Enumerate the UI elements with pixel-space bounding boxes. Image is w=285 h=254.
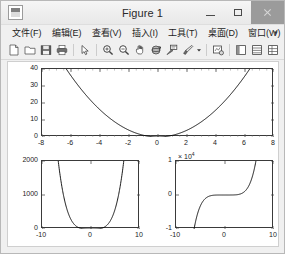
menu-bar: 文件(F) 编辑(E) 查看(V) 插入(I) 工具(T) 桌面(D) 窗口(W… (1, 25, 284, 41)
link-plot-icon[interactable] (210, 43, 225, 58)
x-tick-label: 0 (222, 231, 226, 239)
x-tick-label: 6 (242, 139, 246, 147)
x-tick-label: -2 (125, 139, 131, 147)
bottom-right-plot-axes[interactable] (175, 160, 273, 228)
open-file-icon[interactable] (22, 43, 37, 58)
maximize-icon (234, 9, 242, 16)
x-tick-label: 0 (155, 139, 159, 147)
new-figure-icon[interactable] (6, 43, 21, 58)
x-tick-label: -10 (170, 231, 180, 239)
title-bar: Figure 1 (1, 1, 284, 25)
rotate-3d-icon[interactable] (148, 43, 163, 58)
menu-file[interactable]: 文件(F) (7, 26, 47, 40)
maximize-button[interactable] (224, 1, 251, 24)
x-tick-label: 10 (135, 231, 143, 239)
brush-icon[interactable] (180, 43, 195, 58)
y-tick-label: 1 (139, 156, 172, 164)
matlab-figure-icon (8, 5, 23, 20)
menu-insert[interactable]: 插入(I) (127, 26, 164, 40)
toolbar-separator (229, 44, 230, 56)
bottom-right-plot-curve-layer (176, 161, 274, 229)
y-tick-label: 40 (5, 64, 38, 72)
menu-tools[interactable]: 工具(T) (163, 26, 203, 40)
close-button[interactable] (251, 1, 284, 24)
x-tick-label: -8 (38, 139, 44, 147)
figure-window: Figure 1 文件(F) 编辑(E) 查看(V) 插入(I) 工具(T) 桌… (0, 0, 285, 254)
y-tick-label: -1 (139, 224, 172, 232)
bottom-right-exponent-label: × 104 (178, 151, 195, 160)
top-plot-curve-layer (42, 69, 274, 137)
x-tick-label: 8 (271, 139, 275, 147)
x-tick-label: -6 (67, 139, 73, 147)
y-tick-label: 0 (139, 190, 172, 198)
bottom-left-plot-curve-layer (42, 161, 140, 229)
y-tick-label: 10 (5, 115, 38, 123)
save-figure-icon[interactable] (38, 43, 53, 58)
menu-overflow-chevron-icon[interactable]: ▾ (274, 29, 278, 37)
menu-view[interactable]: 查看(V) (87, 26, 127, 40)
toolbar-separator (73, 44, 74, 56)
y-tick-label: 30 (5, 81, 38, 89)
property-editor-icon[interactable] (265, 43, 280, 58)
tool-bar (1, 41, 284, 60)
menu-window[interactable]: 窗口(W) (243, 26, 285, 40)
figure-palette-icon[interactable] (233, 43, 248, 58)
y-tick-label: 0 (5, 132, 38, 140)
zoom-in-icon[interactable] (100, 43, 115, 58)
x-tick-label: -10 (36, 231, 46, 239)
x-tick-label: 4 (213, 139, 217, 147)
x-tick-label: -4 (96, 139, 102, 147)
toolbar-separator (284, 44, 285, 56)
minimize-icon (206, 15, 215, 16)
bottom-left-plot-axes[interactable] (41, 160, 139, 228)
window-controls (197, 1, 284, 24)
print-figure-icon[interactable] (54, 43, 69, 58)
brush-dropdown-arrow[interactable] (196, 43, 202, 58)
pan-hand-icon[interactable] (132, 43, 147, 58)
minimize-button[interactable] (197, 1, 224, 24)
y-tick-label: 20 (5, 98, 38, 106)
menu-desktop[interactable]: 桌面(D) (203, 26, 244, 40)
y-tick-label: 1000 (5, 190, 38, 198)
plot-browser-icon[interactable] (249, 43, 264, 58)
y-tick-label: 2000 (5, 156, 38, 164)
menu-edit[interactable]: 编辑(E) (47, 26, 87, 40)
close-icon (263, 8, 272, 17)
x-tick-label: 10 (269, 231, 277, 239)
x-tick-label: 0 (88, 231, 92, 239)
toolbar-separator (206, 44, 207, 56)
y-tick-label: 0 (5, 224, 38, 232)
zoom-out-icon[interactable] (116, 43, 131, 58)
pointer-arrow-icon[interactable] (77, 43, 92, 58)
toolbar-separator (96, 44, 97, 56)
data-cursor-icon[interactable] (164, 43, 179, 58)
figure-canvas: 010203040-8-6-4-202468 010002000-10010 -… (7, 61, 279, 247)
top-plot-axes[interactable] (41, 68, 273, 136)
x-tick-label: 2 (184, 139, 188, 147)
